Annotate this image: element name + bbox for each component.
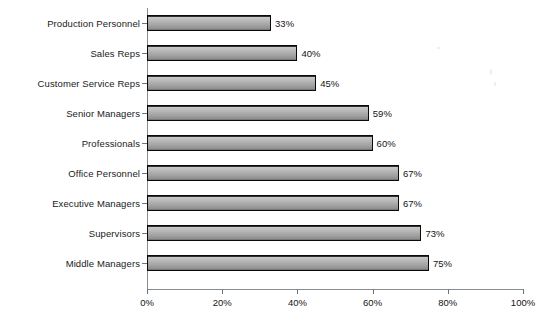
value-axis-tick bbox=[222, 289, 223, 294]
category-label: Customer Service Reps bbox=[38, 78, 140, 89]
value-axis-label: 80% bbox=[438, 297, 457, 308]
bar: 40% bbox=[147, 45, 297, 61]
category-label: Office Personnel bbox=[68, 168, 140, 179]
value-axis-tick bbox=[523, 289, 524, 294]
value-axis-label: 0% bbox=[140, 297, 154, 308]
value-axis-tick bbox=[448, 289, 449, 294]
bar-value-label: 59% bbox=[373, 108, 392, 119]
bar-row: Production Personnel33% bbox=[147, 8, 523, 38]
bar-row: Supervisors73% bbox=[147, 218, 523, 248]
value-axis-line bbox=[147, 289, 524, 290]
value-axis-tick bbox=[147, 289, 148, 294]
bar: 59% bbox=[147, 105, 369, 121]
plot-area: Production Personnel33%Sales Reps40%Cust… bbox=[147, 8, 523, 289]
category-label: Production Personnel bbox=[47, 18, 140, 29]
value-axis-tick bbox=[373, 289, 374, 294]
bar: 67% bbox=[147, 165, 399, 181]
bar: 75% bbox=[147, 255, 429, 271]
value-axis-label: 20% bbox=[213, 297, 232, 308]
category-label: Sales Reps bbox=[90, 48, 140, 59]
bar-value-label: 60% bbox=[377, 138, 396, 149]
bar-row: Sales Reps40% bbox=[147, 38, 523, 68]
bar-value-label: 67% bbox=[403, 198, 422, 209]
value-axis-tick bbox=[297, 289, 298, 294]
bar-row: Customer Service Reps45% bbox=[147, 68, 523, 98]
bar: 73% bbox=[147, 225, 421, 241]
value-axis-label: 60% bbox=[363, 297, 382, 308]
bar-chart: Production Personnel33%Sales Reps40%Cust… bbox=[0, 0, 557, 321]
category-label: Executive Managers bbox=[52, 198, 140, 209]
bar-value-label: 75% bbox=[433, 258, 452, 269]
bar-row: Professionals60% bbox=[147, 128, 523, 158]
bar: 67% bbox=[147, 195, 399, 211]
bar-value-label: 67% bbox=[403, 168, 422, 179]
bar: 45% bbox=[147, 75, 316, 91]
value-axis-label: 100% bbox=[511, 297, 535, 308]
bar-row: Senior Managers59% bbox=[147, 98, 523, 128]
bar-value-label: 73% bbox=[425, 228, 444, 239]
bar-value-label: 40% bbox=[301, 48, 320, 59]
category-label: Middle Managers bbox=[66, 258, 140, 269]
bar: 60% bbox=[147, 135, 373, 151]
category-label: Supervisors bbox=[89, 228, 140, 239]
category-label: Professionals bbox=[82, 138, 140, 149]
value-axis-label: 40% bbox=[288, 297, 307, 308]
bar-row: Office Personnel67% bbox=[147, 158, 523, 188]
bar: 33% bbox=[147, 15, 271, 31]
bar-row: Middle Managers75% bbox=[147, 248, 523, 278]
bar-value-label: 45% bbox=[320, 78, 339, 89]
bar-row: Executive Managers67% bbox=[147, 188, 523, 218]
category-label: Senior Managers bbox=[66, 108, 140, 119]
bar-value-label: 33% bbox=[275, 18, 294, 29]
